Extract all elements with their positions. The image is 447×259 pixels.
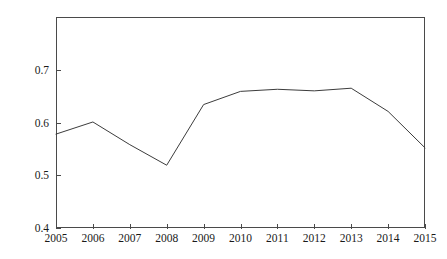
x-tick-mark bbox=[204, 224, 205, 229]
y-tick-mark bbox=[56, 70, 61, 71]
x-tick-label: 2006 bbox=[73, 232, 113, 245]
y-tick-mark bbox=[56, 123, 61, 124]
x-tick-label: 2010 bbox=[221, 232, 261, 245]
x-tick-mark bbox=[314, 224, 315, 229]
y-tick-label: 0.5 bbox=[21, 169, 49, 181]
x-tick-label: 2012 bbox=[294, 232, 334, 245]
x-tick-mark bbox=[388, 224, 389, 229]
x-tick-mark bbox=[93, 224, 94, 229]
x-tick-label: 2011 bbox=[257, 232, 297, 245]
x-tick-label: 2015 bbox=[405, 232, 445, 245]
x-tick-mark bbox=[167, 224, 168, 229]
y-tick-mark bbox=[56, 175, 61, 176]
line-chart: 0.40.50.60.7 200520062007200820092010201… bbox=[0, 0, 447, 259]
y-tick-label: 0.6 bbox=[21, 117, 49, 129]
x-tick-mark bbox=[130, 224, 131, 229]
x-tick-label: 2013 bbox=[331, 232, 371, 245]
x-tick-mark bbox=[425, 224, 426, 229]
x-tick-label: 2009 bbox=[184, 232, 224, 245]
x-tick-label: 2005 bbox=[36, 232, 76, 245]
x-tick-label: 2014 bbox=[368, 232, 408, 245]
x-tick-mark bbox=[56, 224, 57, 229]
x-tick-label: 2007 bbox=[110, 232, 150, 245]
plot-area-frame bbox=[56, 17, 425, 228]
x-tick-mark bbox=[241, 224, 242, 229]
x-tick-mark bbox=[351, 224, 352, 229]
y-tick-label: 0.7 bbox=[21, 64, 49, 76]
x-tick-label: 2008 bbox=[147, 232, 187, 245]
x-tick-mark bbox=[277, 224, 278, 229]
